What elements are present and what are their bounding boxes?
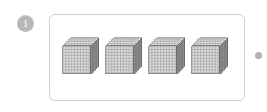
thousand-cube-block[interactable]	[62, 37, 99, 82]
answer-panel[interactable]	[49, 14, 245, 101]
trailing-dot-marker	[255, 52, 262, 59]
thousand-cube-block[interactable]	[191, 37, 228, 82]
question-number-badge: 1	[17, 15, 34, 32]
question-number-label: 1	[23, 18, 28, 28]
thousand-cube-block[interactable]	[148, 37, 185, 82]
worksheet-canvas: 1	[0, 0, 267, 112]
thousand-cube-block[interactable]	[105, 37, 142, 82]
base-ten-blocks-row	[62, 34, 234, 82]
